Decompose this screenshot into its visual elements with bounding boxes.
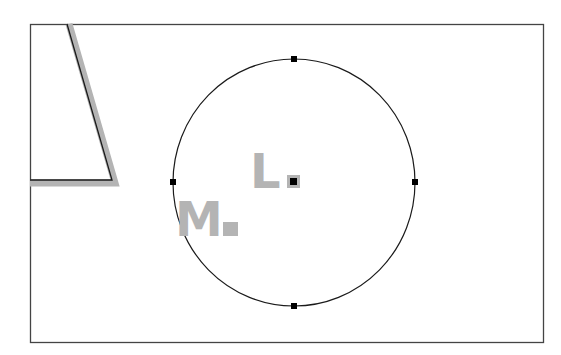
circle-handle-bottom[interactable] (291, 303, 297, 309)
circle-handle-right[interactable] (412, 179, 418, 185)
label-m-marker[interactable] (223, 222, 238, 236)
label-l-point (290, 178, 297, 185)
circle-handle-left[interactable] (170, 179, 176, 185)
wedge-line[interactable] (30, 24, 112, 180)
diagram-canvas: L M (0, 0, 561, 355)
label-m: M (175, 191, 223, 247)
wedge-highlight (30, 24, 115, 183)
circle-handle-top[interactable] (291, 56, 297, 62)
label-l: L (250, 143, 281, 199)
